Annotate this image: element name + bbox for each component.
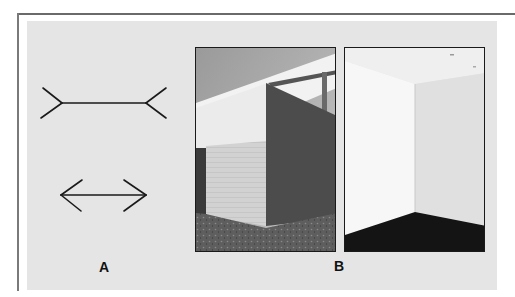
- room-photo-art: [345, 48, 485, 252]
- building-photo-art: [196, 48, 336, 252]
- arrowheads-figure: [61, 180, 146, 211]
- panel-label-a: A: [99, 259, 109, 275]
- photo-building-exterior: [195, 47, 336, 252]
- panel-label-b: B: [334, 258, 344, 274]
- fins-outward-figure: [41, 88, 166, 118]
- photo-room-interior: [344, 47, 485, 252]
